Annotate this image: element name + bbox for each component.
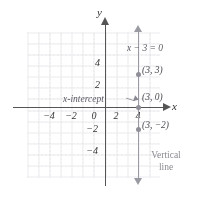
x-tick-label-2: 2 xyxy=(105,110,127,121)
y-tick-label-neg2: −2 xyxy=(78,123,98,134)
x-intercept-annotation: x-intercept xyxy=(63,94,104,104)
x-axis-label: x xyxy=(172,100,177,112)
coordinate-plane-figure: x y −4 −2 0 2 4 4 2 −2 −4 x − 3 = 0 (3, … xyxy=(0,0,197,198)
y-axis-arrowhead-icon xyxy=(101,17,109,25)
x-tick-label-zero: 0 xyxy=(83,110,105,121)
equation-label: x − 3 = 0 xyxy=(127,43,163,53)
x-axis-arrowhead-icon xyxy=(163,103,171,111)
vertical-line-annotation-line1: Vertical xyxy=(144,150,188,161)
y-tick-label-4: 4 xyxy=(80,57,100,68)
point-label-3-neg2: (3, −2) xyxy=(142,120,169,130)
vertical-line-arrowhead-up-icon xyxy=(134,25,142,32)
y-tick-label-2: 2 xyxy=(80,79,100,90)
x-tick-label-neg4: −4 xyxy=(38,110,60,121)
data-point-3-neg2 xyxy=(136,127,141,132)
x-axis xyxy=(13,107,165,108)
y-axis-label: y xyxy=(97,6,102,18)
data-point-3-0 xyxy=(136,105,141,110)
vertical-line-arrowhead-down-icon xyxy=(134,178,142,185)
vertical-line-annotation-line2: line xyxy=(144,162,188,173)
y-axis xyxy=(105,24,106,186)
point-label-3-0: (3, 0) xyxy=(142,92,163,102)
point-label-3-3: (3, 3) xyxy=(142,65,163,75)
y-tick-label-neg4: −4 xyxy=(78,145,98,156)
data-point-3-3 xyxy=(136,72,141,77)
x-tick-label-neg2: −2 xyxy=(60,110,82,121)
